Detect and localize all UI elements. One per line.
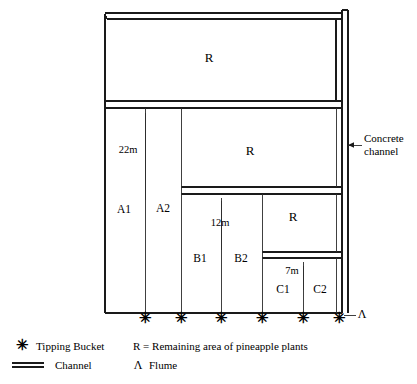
remaining-area-label-top: R — [205, 50, 214, 65]
remaining-area-label-middle: R — [246, 143, 255, 158]
tipping-bucket-star-5: ✳ — [297, 310, 310, 326]
legend-remaining-area-label: R = Remaining area of pineapple plants — [133, 340, 308, 352]
plot-label-b1: B1 — [193, 252, 207, 264]
channel-top — [105, 13, 342, 19]
channel-lower-c — [262, 252, 341, 258]
channel-upper-middle — [105, 101, 341, 108]
legend-flume-icon: Λ — [134, 358, 143, 372]
tipping-bucket-star-1: ✳ — [139, 310, 152, 326]
tipping-bucket-star-4: ✳ — [256, 310, 269, 326]
legend-channel-label: Channel — [55, 359, 92, 371]
concrete-channel-arrowhead — [348, 142, 354, 148]
dimension-label-7m: 7m — [285, 265, 298, 276]
plot-label-a2: A2 — [156, 202, 170, 214]
legend: ✳ Tipping Bucket Channel R = Remaining a… — [12, 337, 308, 372]
dimension-label-12m: 12m — [211, 217, 230, 228]
plot-label-b2: B2 — [234, 252, 248, 264]
legend-channel-icon — [12, 363, 44, 367]
legend-flume-label: Flume — [149, 359, 177, 371]
tipping-bucket-star-6: ✳ — [333, 310, 346, 326]
tipping-bucket-star-2: ✳ — [175, 310, 188, 326]
concrete-channel — [342, 10, 348, 313]
concrete-channel-label-line2: channel — [364, 145, 398, 157]
plot-dividers — [145, 108, 336, 313]
tipping-bucket-markers: ✳ ✳ ✳ ✳ ✳ ✳ — [139, 310, 346, 326]
plot-label-a1: A1 — [117, 203, 131, 215]
field-outer-boundary — [105, 14, 342, 313]
figure-root: R R R A1 A2 B1 B2 C1 C2 22m 12m 7m Concr… — [0, 0, 417, 384]
concrete-channel-label-line1: Concrete — [364, 132, 404, 144]
channel-middle-lower — [181, 187, 341, 194]
plot-label-c1: C1 — [276, 283, 290, 295]
plot-label-c2: C2 — [313, 283, 327, 295]
legend-tipping-bucket-label: Tipping Bucket — [36, 340, 104, 352]
concrete-channel-callout: Concrete channel — [348, 132, 404, 157]
flume-marker-diagram: Λ — [344, 307, 367, 321]
remaining-area-label-lower: R — [289, 209, 298, 224]
legend-tipping-bucket-icon: ✳ — [16, 337, 29, 353]
field-layout-diagram: R R R A1 A2 B1 B2 C1 C2 22m 12m 7m Concr… — [0, 0, 417, 384]
tipping-bucket-star-3: ✳ — [215, 310, 228, 326]
flume-symbol-diagram: Λ — [358, 307, 367, 321]
dimension-label-22m: 22m — [119, 144, 138, 155]
